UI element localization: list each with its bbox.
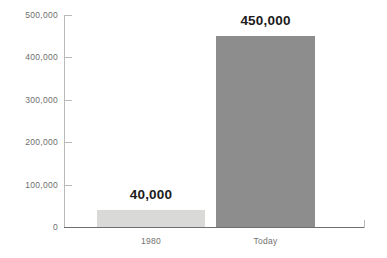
bar-chart: 500,000 400,000 300,000 200,000 100,000 … [0,0,387,258]
bar-1980 [97,210,205,227]
y-tick-label-100000: 100,000 [0,181,58,190]
x-axis-end-tick [364,220,365,228]
category-label-today: Today [216,237,315,246]
y-tick-label-200000: 200,000 [0,138,58,147]
y-tick-label-0: 0 [0,223,58,232]
bar-value-label-1980: 40,000 [97,188,205,202]
bar-value-label-today: 450,000 [216,14,315,28]
y-tick-mark-300000 [64,100,72,101]
y-tick-label-500000: 500,000 [0,11,58,20]
y-axis-line [64,15,65,228]
y-tick-label-400000: 400,000 [0,53,58,62]
x-axis-line [64,227,365,228]
y-tick-mark-500000 [64,15,72,16]
y-tick-mark-400000 [64,57,72,58]
bar-today [216,36,315,227]
y-tick-mark-200000 [64,142,72,143]
y-tick-label-300000: 300,000 [0,96,58,105]
category-label-1980: 1980 [97,237,205,246]
y-tick-mark-100000 [64,185,72,186]
